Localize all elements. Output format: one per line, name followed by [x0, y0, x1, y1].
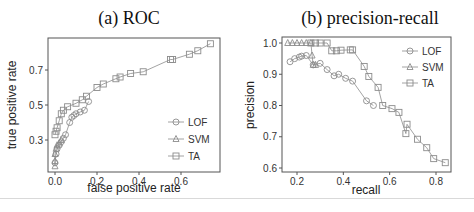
legend-label: SVM	[422, 62, 444, 73]
x-tick-label: 0.0	[48, 176, 62, 187]
y-tick-label: 0.5	[29, 100, 43, 111]
x-tick-label: 0.2	[290, 176, 304, 187]
x-axis-label: false positive rate	[87, 181, 181, 195]
y-tick-label: 0.7	[263, 131, 277, 142]
legend-label: LOF	[188, 117, 207, 128]
legend-label: TA	[422, 78, 434, 89]
legend-label: LOF	[422, 46, 441, 57]
y-tick-label: 0.7	[29, 65, 43, 76]
y-tick-label: 0.9	[263, 69, 277, 80]
x-tick-label: 0.4	[336, 176, 350, 187]
x-axis-label: recall	[352, 183, 381, 197]
divider	[0, 198, 474, 199]
y-tick-label: 1.0	[263, 38, 277, 49]
y-tick-label: 0.8	[263, 100, 277, 111]
legend-label: SVM	[188, 134, 210, 145]
y-tick-label: 0.6	[263, 163, 277, 174]
pr-chart: 0.20.40.60.80.60.70.80.91.0recallprecisi…	[243, 37, 451, 197]
legend-label: TA	[188, 151, 200, 162]
y-axis-label: true positive rate	[5, 60, 19, 149]
roc-chart: 0.00.20.40.60.30.50.7false positive rate…	[5, 38, 220, 195]
charts-canvas: 0.00.20.40.60.30.50.7false positive rate…	[0, 0, 474, 212]
y-tick-label: 0.3	[29, 135, 43, 146]
y-axis-label: precision	[243, 81, 257, 129]
x-tick-label: 0.6	[383, 176, 397, 187]
x-tick-label: 0.8	[429, 176, 443, 187]
